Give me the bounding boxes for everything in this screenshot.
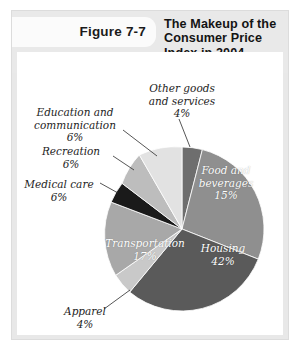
pie-chart-plot-area: Education and communication 6% Other goo… <box>17 52 283 335</box>
leader-line-other-goods <box>179 119 190 147</box>
slice-callout-other-goods-and-services: Other goods and services 4% <box>137 82 227 120</box>
leader-line-recreation <box>113 156 134 170</box>
leader-line-medical-care <box>100 183 118 193</box>
slice-label-food-and-beverages: Food and beverages 15% <box>189 164 263 202</box>
slice-callout-apparel: Apparel 4% <box>53 305 117 330</box>
slice-callout-recreation: Recreation 6% <box>31 145 111 170</box>
slice-label-transportation: Transportation 17% <box>101 237 189 262</box>
figure-number-label: Figure 7-7 <box>12 17 146 47</box>
slice-callout-education-and-communication: Education and communication 6% <box>25 106 125 144</box>
figure-number-tab: Figure 7-7 <box>12 17 156 47</box>
slice-label-housing: Housing 42% <box>191 242 255 267</box>
leader-line-education <box>123 130 157 156</box>
slice-callout-medical-care: Medical care 6% <box>17 178 101 203</box>
figure-card: Figure 7-7 The Makeup of the Consumer Pr… <box>11 10 289 340</box>
